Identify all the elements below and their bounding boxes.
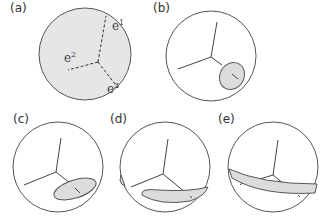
panel-e-sphere <box>228 122 318 212</box>
panel-c-sphere <box>13 122 103 212</box>
panel-b-sphere <box>166 11 256 101</box>
panel-d-sphere <box>120 122 210 212</box>
label-e3: e3 <box>107 81 119 96</box>
diagram-canvas: e1 e2 e3 <box>0 0 329 222</box>
panel-a-sphere: e1 e2 e3 <box>39 8 131 100</box>
